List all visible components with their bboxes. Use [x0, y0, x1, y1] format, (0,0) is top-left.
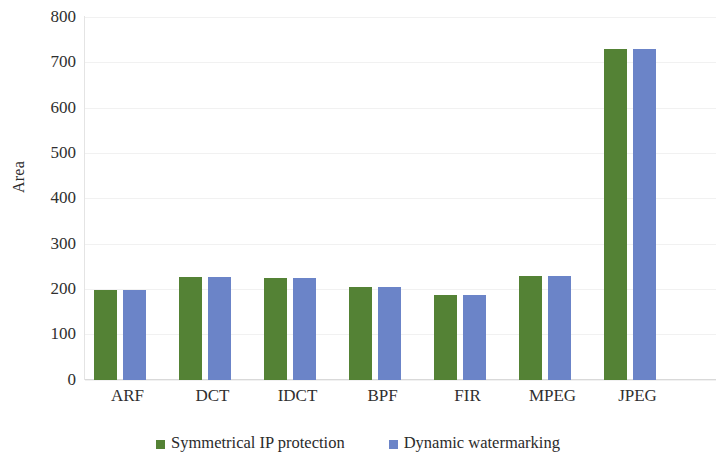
- bar: [264, 278, 287, 380]
- bar: [179, 277, 202, 380]
- bar: [633, 49, 656, 380]
- y-axis-tick-label: 200: [32, 280, 76, 297]
- bar-group: [510, 17, 595, 380]
- y-axis-tick-label: 800: [32, 8, 76, 25]
- bar: [463, 295, 486, 379]
- y-axis-tick-label: 300: [32, 235, 76, 252]
- legend-item[interactable]: Dynamic watermarking: [389, 434, 560, 452]
- bar: [604, 49, 627, 380]
- bar: [349, 287, 372, 380]
- bar-group: [85, 17, 170, 380]
- x-axis-category-label: JPEG: [595, 386, 680, 406]
- bar-chart: Area 8007006005004003002001000 ARFDCTIDC…: [0, 0, 716, 466]
- y-axis-tick-label: 700: [32, 53, 76, 70]
- x-axis-category-label: BPF: [340, 386, 425, 406]
- legend-swatch-icon: [156, 440, 165, 449]
- bar-group: [340, 17, 425, 380]
- x-axis-category-label: ARF: [85, 386, 170, 406]
- bar: [123, 290, 146, 379]
- x-axis-category-label: DCT: [170, 386, 255, 406]
- bar-group: [595, 17, 680, 380]
- bar: [208, 277, 231, 380]
- y-axis-tick-label: 400: [32, 189, 76, 206]
- legend-item[interactable]: Symmetrical IP protection: [156, 434, 345, 452]
- y-axis-tick-labels: 8007006005004003002001000: [20, 0, 76, 380]
- gridline: [85, 380, 716, 381]
- bar: [94, 290, 117, 379]
- bar-group: [425, 17, 510, 380]
- plot-area: [85, 17, 716, 380]
- bar-series-container: [85, 17, 716, 380]
- legend-label: Dynamic watermarking: [404, 434, 560, 452]
- y-axis-tick-label: 600: [32, 99, 76, 116]
- bar-group: [170, 17, 255, 380]
- bar: [378, 287, 401, 380]
- x-axis-category-label: FIR: [425, 386, 510, 406]
- bar-group: [255, 17, 340, 380]
- chart-legend: Symmetrical IP protectionDynamic waterma…: [0, 430, 716, 456]
- x-axis-category-label: IDCT: [255, 386, 340, 406]
- x-axis-category-label: MPEG: [510, 386, 595, 406]
- bar: [293, 278, 316, 380]
- bar: [519, 276, 542, 380]
- bar: [548, 276, 571, 380]
- legend-swatch-icon: [389, 440, 398, 449]
- y-axis-tick-label: 100: [32, 325, 76, 342]
- y-axis-tick-label: 500: [32, 144, 76, 161]
- x-axis-category-labels: ARFDCTIDCTBPFFIRMPEGJPEG: [85, 386, 716, 410]
- y-axis-tick-label: 0: [32, 371, 76, 388]
- legend-label: Symmetrical IP protection: [171, 434, 345, 452]
- bar: [434, 295, 457, 379]
